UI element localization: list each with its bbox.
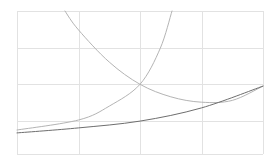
grid [17,11,264,155]
line-chart [0,0,278,164]
series-line-rising-steep [17,11,172,130]
series-line-decreasing [65,11,263,103]
